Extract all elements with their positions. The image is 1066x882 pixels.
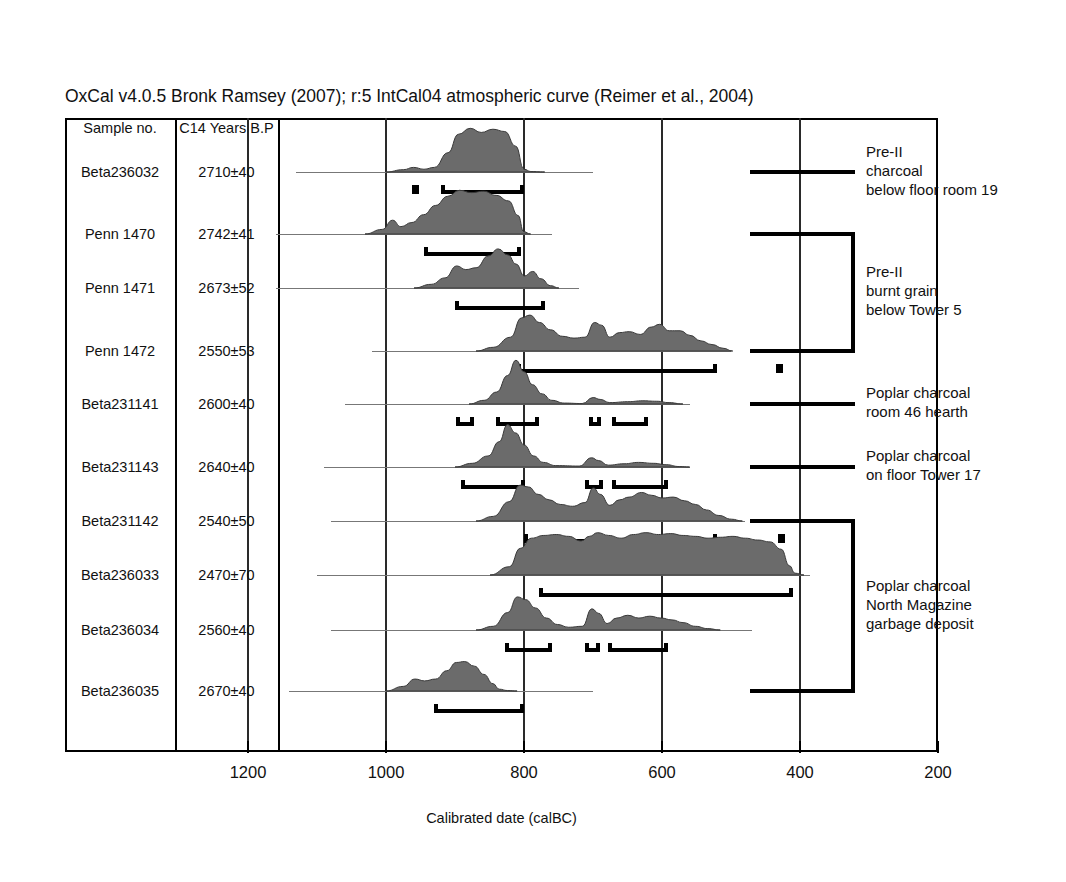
axis-tick-label-400: 400 — [786, 763, 814, 782]
distribution-curve-4 — [474, 303, 735, 355]
range-cap-right-10-1 — [520, 704, 524, 713]
group-label-5: Poplar charcoalNorth Magazinegarbage dep… — [866, 576, 974, 633]
sample-c14-5: 2600±40 — [198, 396, 254, 412]
distribution-curve-1 — [384, 124, 547, 176]
group-label-line-4-2: on floor Tower 17 — [866, 465, 981, 484]
group-label-line-3-2: room 46 hearth — [866, 402, 970, 421]
sample-name-9: Beta236034 — [81, 622, 159, 638]
group-label-4: Poplar charcoalon floor Tower 17 — [866, 446, 981, 484]
group-label-line-2-3: below Tower 5 — [866, 300, 962, 319]
range-bar-10-1 — [434, 709, 524, 713]
sample-c14-4: 2550±53 — [198, 343, 254, 359]
range-cap-right-9-3 — [664, 643, 668, 652]
group-label-line-3-1: Poplar charcoal — [866, 383, 970, 402]
sample-c14-9: 2560±40 — [198, 622, 254, 638]
gridline-1200 — [247, 118, 249, 752]
sample-name-2: Penn 1470 — [85, 226, 155, 242]
group-label-line-1-1: Pre-II — [866, 142, 998, 161]
distribution-curve-6 — [453, 419, 692, 471]
distribution-curve-10 — [384, 643, 519, 695]
distribution-curve-9 — [474, 582, 722, 634]
group-bracket-top-2 — [750, 232, 855, 236]
group-bracket-bottom-2 — [750, 349, 855, 353]
range-cap-right-9-2 — [596, 643, 600, 652]
group-lead-line-3 — [750, 402, 855, 406]
sample-name-3: Penn 1471 — [85, 280, 155, 296]
table-header-1: Sample no. — [83, 120, 156, 136]
group-label-line-2-2: burnt grain — [866, 281, 962, 300]
axis-tick-label-600: 600 — [648, 763, 676, 782]
distribution-curve-8 — [488, 527, 806, 579]
group-bracket-side-5 — [851, 519, 855, 693]
group-label-line-5-3: garbage deposit — [866, 614, 974, 633]
range-cap-right-8-1 — [789, 588, 793, 597]
sample-name-8: Beta236033 — [81, 567, 159, 583]
sample-name-6: Beta231143 — [81, 459, 158, 475]
group-label-line-5-1: Poplar charcoal — [866, 576, 974, 595]
axis-tick-label-200: 200 — [924, 763, 952, 782]
sample-c14-10: 2670±40 — [198, 683, 254, 699]
distribution-curve-5 — [467, 356, 685, 408]
axis-tick-major-1000 — [385, 741, 387, 753]
axis-tick-label-800: 800 — [510, 763, 538, 782]
sample-name-1: Beta236032 — [81, 164, 159, 180]
sample-c14-1: 2710±40 — [198, 164, 254, 180]
axis-tick-major-400 — [799, 741, 801, 753]
page-title: OxCal v4.0.5 Bronk Ramsey (2007); r:5 In… — [65, 86, 754, 107]
axis-tick-major-600 — [661, 741, 663, 753]
range-cap-right-4-1 — [713, 364, 717, 373]
table-column-separator-1 — [175, 118, 177, 752]
group-label-line-2-1: Pre-II — [866, 262, 962, 281]
group-bracket-side-2 — [851, 232, 855, 353]
group-label-3: Poplar charcoalroom 46 hearth — [866, 383, 970, 421]
group-label-line-1-3: below floor room 19 — [866, 180, 998, 199]
axis-tick-label-1000: 1000 — [368, 763, 405, 782]
range-cap-left-6-1 — [461, 480, 465, 489]
table-header-2: C14 Years B.P — [179, 120, 273, 136]
axis-tick-major-1200 — [247, 741, 249, 753]
sample-name-4: Penn 1472 — [85, 343, 155, 359]
sample-c14-6: 2640±40 — [198, 459, 254, 475]
sample-c14-2: 2742±41 — [198, 226, 254, 242]
axis-tick-major-800 — [523, 741, 525, 753]
group-lead-line-1 — [750, 170, 855, 174]
range-cap-left-9-2 — [585, 643, 589, 652]
group-label-line-1-2: charcoal — [866, 161, 998, 180]
distribution-curve-3 — [412, 240, 561, 292]
table-column-separator-2 — [278, 118, 280, 752]
group-label-2: Pre-IIburnt grainbelow Tower 5 — [866, 262, 962, 319]
group-label-line-5-2: North Magazine — [866, 595, 974, 614]
range-cap-left-10-1 — [434, 704, 438, 713]
axis-tick-label-1200: 1200 — [230, 763, 267, 782]
group-bracket-bottom-5 — [750, 689, 855, 693]
sample-name-10: Beta236035 — [81, 683, 159, 699]
range-cap-right-4-2 — [779, 364, 783, 373]
sample-name-7: Beta231142 — [81, 513, 158, 529]
distribution-curve-2 — [363, 186, 533, 238]
axis-tick-major-200 — [937, 741, 939, 753]
group-bracket-top-5 — [750, 519, 855, 523]
range-bar-9-3 — [608, 648, 667, 652]
sample-c14-7: 2540±50 — [198, 513, 254, 529]
gridline-400 — [799, 118, 801, 752]
group-label-1: Pre-IIcharcoalbelow floor room 19 — [866, 142, 998, 199]
axis-title: Calibrated date (calBC) — [426, 810, 577, 826]
sample-c14-3: 2673±52 — [198, 280, 254, 296]
range-cap-right-9-1 — [548, 643, 552, 652]
sample-c14-8: 2470±70 — [198, 567, 254, 583]
group-lead-line-4 — [750, 465, 855, 469]
group-label-line-4-1: Poplar charcoal — [866, 446, 981, 465]
range-cap-left-9-3 — [608, 643, 612, 652]
range-cap-left-3-1 — [455, 301, 459, 310]
sample-name-5: Beta231141 — [81, 396, 158, 412]
distribution-curve-7 — [474, 473, 744, 525]
